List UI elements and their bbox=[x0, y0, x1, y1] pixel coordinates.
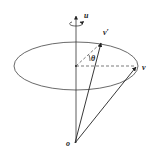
radius-to-v-prime bbox=[76, 44, 100, 66]
label-u: u bbox=[84, 11, 89, 20]
label-v: v bbox=[142, 63, 146, 72]
label-v-prime: v′ bbox=[103, 28, 109, 37]
vector-v-prime bbox=[75, 43, 101, 143]
rotation-diagram: u v′ θ v o bbox=[0, 0, 154, 154]
label-origin: o bbox=[66, 139, 70, 148]
theta-arc bbox=[89, 55, 90, 61]
label-theta: θ bbox=[91, 54, 96, 63]
vector-v bbox=[75, 67, 136, 143]
